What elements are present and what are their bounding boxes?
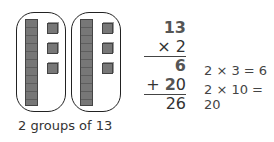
partial-product-1: 6	[140, 56, 186, 75]
ones-cube	[102, 23, 113, 34]
caption: 2 groups of 13	[18, 118, 112, 133]
ones-cube	[102, 43, 113, 54]
group-2	[71, 12, 121, 112]
ones-cube	[47, 43, 58, 54]
multiplier: × 2	[140, 37, 186, 56]
ones-cube	[47, 23, 58, 34]
tens-rod	[80, 19, 93, 106]
multiplicand: 13	[140, 18, 186, 37]
vertical-multiplication: 13 × 2 6 + 20 26	[140, 18, 186, 113]
explanation-2: 2 × 10 = 20	[204, 82, 274, 112]
group-1	[16, 12, 66, 112]
partial-product-2: + 20	[140, 75, 186, 94]
result: 26	[140, 94, 186, 113]
ones-digit: 0	[176, 75, 186, 94]
tens-rod	[25, 19, 38, 106]
plus-sign: +	[146, 75, 159, 94]
explanation-1: 2 × 3 = 6	[204, 63, 267, 78]
tens-digit: 2	[165, 75, 176, 94]
ones-cube	[102, 63, 113, 74]
ones-cube	[47, 63, 58, 74]
